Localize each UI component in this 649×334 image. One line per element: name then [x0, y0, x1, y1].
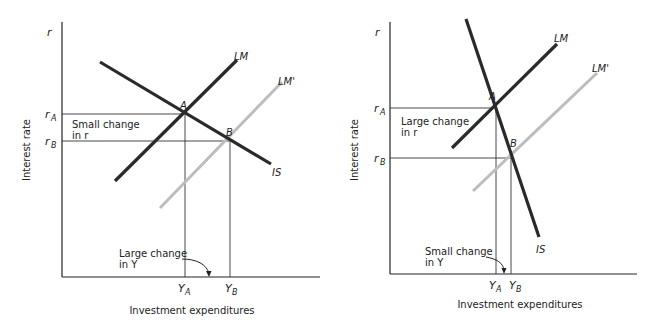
- arrow-head-icon: [206, 271, 212, 277]
- lm-label: LM: [554, 33, 569, 44]
- r-change-note-line2: in r: [401, 127, 418, 138]
- lm-prime-label: LM': [278, 76, 295, 87]
- lm-prime-curve: [160, 82, 282, 208]
- y-axis-label: Interest rate: [21, 119, 32, 181]
- point-a-label: A: [179, 100, 187, 111]
- x-axis-label: Investment expenditures: [457, 299, 582, 310]
- lm-prime-label: LM': [592, 63, 609, 74]
- x-axis-label: Investment expenditures: [129, 305, 254, 316]
- svg-text:B: B: [516, 285, 522, 294]
- point-b-label: B: [226, 127, 233, 138]
- y-b-label: Y B: [225, 282, 238, 297]
- is-lm-diagram: r Interest rate r A r B Small change in …: [0, 0, 649, 334]
- r-change-note-line2: in r: [72, 130, 89, 141]
- y-change-note-line1: Large change: [119, 248, 187, 259]
- y-axis-symbol: r: [47, 26, 53, 39]
- point-a-label: A: [488, 91, 496, 102]
- svg-text:A: A: [495, 285, 501, 294]
- svg-text:A: A: [50, 114, 56, 123]
- y-change-note-line1: Small change: [425, 246, 493, 257]
- y-axis-label: Interest rate: [349, 119, 360, 181]
- r-b-label: r B: [374, 152, 386, 167]
- svg-text:B: B: [232, 288, 238, 297]
- r-a-label: r A: [45, 108, 56, 123]
- right-panel: r Interest rate r A r B Large change in …: [349, 19, 637, 310]
- svg-text:B: B: [51, 141, 57, 150]
- is-curve: [100, 62, 271, 164]
- is-label: IS: [536, 244, 546, 255]
- r-change-note-line1: Large change: [401, 116, 469, 127]
- r-b-label: r B: [45, 135, 57, 150]
- change-arrow: [486, 257, 504, 270]
- svg-text:A: A: [184, 288, 190, 297]
- is-label: IS: [272, 167, 282, 178]
- r-change-note-line1: Small change: [72, 119, 140, 130]
- y-axis-symbol: r: [375, 26, 381, 39]
- svg-text:B: B: [380, 158, 386, 167]
- change-arrow: [182, 259, 209, 274]
- arrow-head-icon: [502, 268, 507, 274]
- lm-label: LM: [234, 51, 249, 62]
- y-a-label: Y A: [489, 279, 501, 294]
- is-curve: [466, 19, 539, 237]
- y-change-note-line2: in Y: [425, 257, 444, 268]
- svg-text:A: A: [379, 108, 385, 117]
- y-change-note-line2: in Y: [119, 259, 138, 270]
- y-b-label: Y B: [509, 279, 522, 294]
- point-b-label: B: [510, 138, 517, 149]
- left-panel: r Interest rate r A r B Small change in …: [21, 22, 320, 316]
- y-a-label: Y A: [178, 282, 190, 297]
- r-a-label: r A: [374, 102, 385, 117]
